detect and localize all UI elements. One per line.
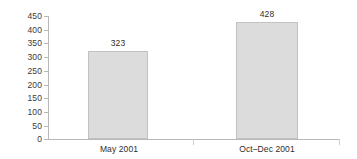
y-axis-label: 50 xyxy=(2,122,42,131)
y-axis-label: 400 xyxy=(2,26,42,35)
y-axis-label: 450 xyxy=(2,12,42,21)
y-axis-line xyxy=(48,16,49,140)
y-axis-label: 200 xyxy=(2,81,42,90)
y-axis-tick xyxy=(44,30,49,31)
x-axis-category-label: Oct–Dec 2001 xyxy=(239,144,295,154)
y-axis-label: 100 xyxy=(2,108,42,117)
bar-chart: 450 400 350 300 250 200 150 100 50 0 323… xyxy=(0,0,357,159)
x-axis-separator-tick xyxy=(193,139,194,145)
y-axis-tick xyxy=(44,16,49,17)
x-axis-line xyxy=(48,139,340,140)
y-axis-tick xyxy=(44,98,49,99)
y-axis-tick xyxy=(44,43,49,44)
y-axis-tick xyxy=(44,71,49,72)
bar-value-label: 323 xyxy=(111,39,125,48)
bar-may-2001 xyxy=(88,51,148,139)
y-axis-tick xyxy=(44,126,49,127)
y-axis-label: 250 xyxy=(2,67,42,76)
y-axis-label: 150 xyxy=(2,94,42,103)
bar-value-label: 428 xyxy=(260,10,274,19)
y-axis-tick xyxy=(44,57,49,58)
y-axis-label: 350 xyxy=(2,39,42,48)
y-axis-tick xyxy=(44,85,49,86)
y-axis-tick xyxy=(44,112,49,113)
y-axis-label: 0 xyxy=(2,135,42,144)
bar-oct-dec-2001 xyxy=(236,22,298,139)
x-axis-separator-tick xyxy=(339,139,340,145)
y-axis-label: 300 xyxy=(2,53,42,62)
x-axis-category-label: May 2001 xyxy=(100,144,138,154)
